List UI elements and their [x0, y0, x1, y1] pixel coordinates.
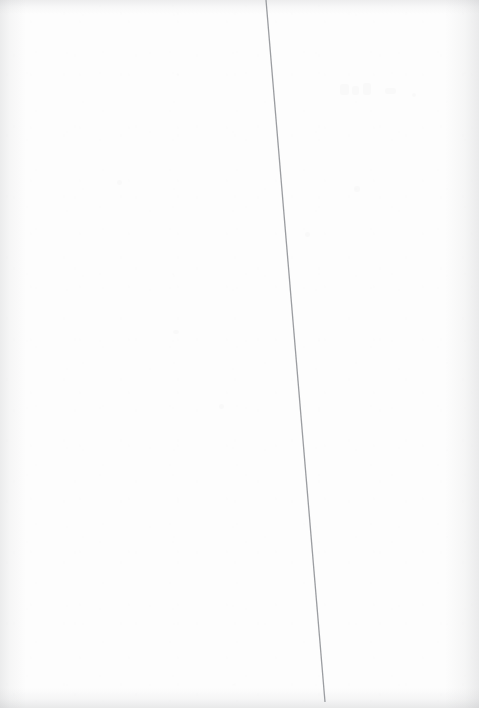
paper-background: [0, 0, 479, 708]
scanned-page: [0, 0, 479, 708]
